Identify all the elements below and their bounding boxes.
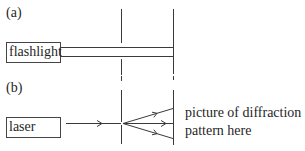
annotation-line-2: pattern here: [185, 124, 251, 138]
laser-box: laser: [6, 117, 61, 138]
panel-label-a: (a): [6, 6, 22, 20]
diffracted-ray-down: [123, 124, 173, 139]
panel-label-b: (b): [6, 81, 22, 95]
diffracted-ray-up: [123, 109, 173, 124]
annotation-line-1: picture of diffraction: [185, 106, 301, 120]
flashlight-box: flashlight: [6, 42, 61, 63]
